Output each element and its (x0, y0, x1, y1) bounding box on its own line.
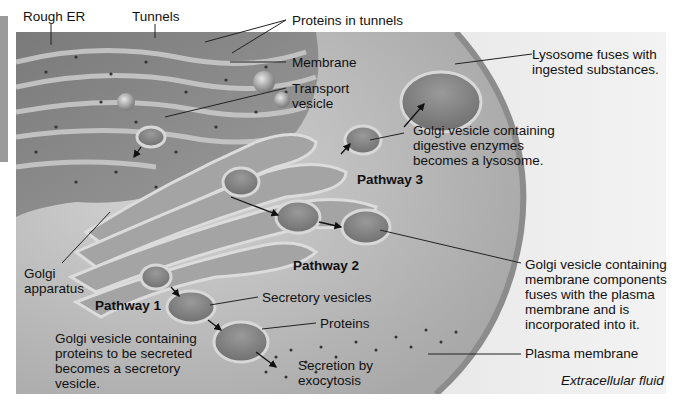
label-transport-line2: vesicle (292, 96, 349, 111)
label-pathway-3: Pathway 3 (357, 172, 423, 187)
label-golgi-membrane-line4: membrane and is (525, 302, 667, 317)
label-golgi-digestive: Golgi vesicle containing digestive enzym… (413, 123, 555, 168)
label-plasma-membrane: Plasma membrane (525, 346, 638, 361)
label-golgi-digestive-line1: Golgi vesicle containing (413, 123, 555, 138)
label-golgi-membrane-line3: fuses with the plasma (525, 287, 667, 302)
label-golgi-membrane-line2: membrane components (525, 272, 667, 287)
label-membrane: Membrane (292, 55, 357, 70)
label-proteins: Proteins (320, 316, 370, 331)
label-proteins-in-tunnels: Proteins in tunnels (292, 13, 403, 28)
label-pathway-2: Pathway 2 (293, 258, 359, 273)
label-golgi-secreted-line1: Golgi vesicle containing (55, 331, 197, 346)
label-golgi-secreted-line2: proteins to be secreted (55, 346, 197, 361)
label-golgi-apparatus: Golgi apparatus (24, 266, 84, 296)
label-secretion: Secretion by exocytosis (298, 358, 373, 388)
label-lysosome-line1: Lysosome fuses with (532, 47, 659, 62)
label-golgi-secreted: Golgi vesicle containing proteins to be … (55, 331, 197, 391)
label-golgi-digestive-line3: becomes a lysosome. (413, 153, 555, 168)
label-golgi-digestive-line2: digestive enzymes (413, 138, 555, 153)
label-lysosome-fuses: Lysosome fuses with ingested substances. (532, 47, 659, 77)
label-golgi-membrane-line1: Golgi vesicle containing (525, 257, 667, 272)
label-secretion-line1: Secretion by (298, 358, 373, 373)
label-golgi-secreted-line4: vesicle. (55, 376, 197, 391)
label-transport-vesicle: Transport vesicle (292, 81, 349, 111)
label-golgi-membrane: Golgi vesicle containing membrane compon… (525, 257, 667, 332)
label-pathway-1: Pathway 1 (95, 298, 161, 313)
label-lysosome-line2: ingested substances. (532, 62, 659, 77)
label-golgi-line1: Golgi (24, 266, 84, 281)
label-extracellular-fluid: Extracellular fluid (561, 373, 664, 388)
label-golgi-secreted-line3: becomes a secretory (55, 361, 197, 376)
label-secretory-vesicles: Secretory vesicles (262, 290, 372, 305)
label-golgi-membrane-line5: incorporated into it. (525, 317, 667, 332)
label-golgi-line2: apparatus (24, 281, 84, 296)
label-secretion-line2: exocytosis (298, 373, 373, 388)
label-transport-line1: Transport (292, 81, 349, 96)
label-tunnels: Tunnels (132, 9, 180, 24)
label-rough-er: Rough ER (23, 9, 85, 24)
